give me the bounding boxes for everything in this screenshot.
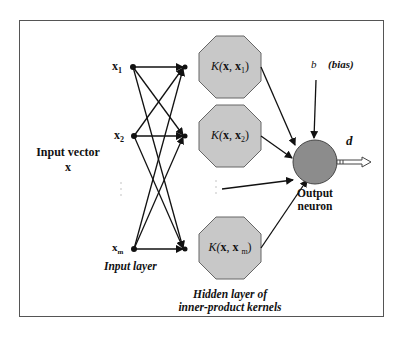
input-vector-label: Input vector x <box>30 145 106 175</box>
bias-label: (bias) <box>328 58 354 70</box>
input-label-1: x1 <box>112 59 122 75</box>
kernel-label-m: K(x, x m) <box>197 240 263 256</box>
input-layer-label: Input layer <box>104 260 157 272</box>
output-arrow-icon <box>337 157 371 167</box>
input-to-hidden-connections <box>133 67 183 249</box>
kernel-label-2: K(x, x2) <box>199 128 261 144</box>
output-neuron-label: Output neuron <box>290 187 340 213</box>
hidden-layer-label: Hidden layer of inner-product kernels <box>160 288 300 314</box>
input-label-m: xm <box>112 241 123 256</box>
bias-symbol: b <box>311 58 317 70</box>
output-symbol: d <box>346 133 353 149</box>
kernel-label-1: K(x, x1) <box>199 59 261 75</box>
input-node-2 <box>131 133 137 139</box>
output-neuron <box>293 140 337 184</box>
bias-arrow <box>314 80 316 138</box>
input-node-1 <box>130 64 136 70</box>
input-label-2: x2 <box>114 128 124 144</box>
input-node-m <box>131 246 137 252</box>
